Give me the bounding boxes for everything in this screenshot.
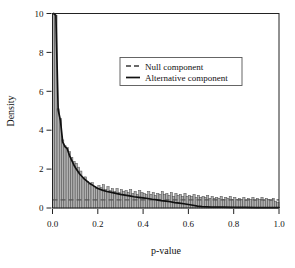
histogram-bar [145,194,147,208]
histogram-bar [96,189,98,208]
histogram-bar [179,194,181,208]
histogram-bar [243,197,245,208]
y-tick-label: 2 [39,164,44,174]
x-axis-title: p-value [151,245,182,256]
y-tick-label: 10 [35,9,45,19]
y-tick-label: 8 [39,48,44,58]
histogram-bar [268,199,270,208]
histogram-bar [234,197,236,208]
histogram-bar [161,191,163,208]
histogram-bar [102,185,104,208]
histogram-bar [252,197,254,208]
y-axis-title: Density [5,95,16,126]
histogram-bar [64,146,66,208]
histogram-bar [177,195,179,208]
histogram-bar [191,196,193,208]
legend-label-alternative: Alternative component [145,73,228,83]
histogram-bar [120,190,122,208]
histogram-bar [93,187,95,208]
x-tick-label: 0.4 [137,219,149,229]
figure-container: 0.00.20.40.60.81.0 0246810 p-value Densi… [0,0,295,268]
histogram-bar [107,187,109,208]
y-tick-label: 6 [39,87,44,97]
y-tick-label: 0 [39,203,44,213]
histogram-bar [57,109,59,208]
histogram-bar [105,190,107,208]
histogram-bar [150,194,152,208]
histogram-bar [261,197,263,208]
x-tick-label: 0.8 [228,219,240,229]
histogram-bar [73,161,75,208]
histogram-bar [89,185,91,208]
y-tick-label: 4 [39,125,44,135]
histogram-bar [175,193,177,208]
x-tick-label: 1.0 [273,219,285,229]
histogram-bar [184,193,186,208]
histogram-bar [82,179,84,208]
histogram-bar [91,183,93,208]
histogram-bar [229,196,231,208]
chart-svg: 0.00.20.40.60.81.0 0246810 p-value Densi… [0,0,295,268]
histogram-bar [182,196,184,208]
histogram-bar [259,199,261,208]
x-tick-label: 0.0 [47,219,59,229]
histogram-bar [188,195,190,208]
x-tick-label: 0.2 [92,219,103,229]
x-tick-label: 0.6 [183,219,195,229]
histogram-bar [139,191,141,209]
histogram-bar [154,195,156,208]
histogram-bar [265,198,267,208]
histogram-bar [62,140,64,208]
histogram-bar [220,196,222,208]
histogram-bar [111,189,113,208]
histogram-bar [186,196,188,208]
histogram-bar [130,190,132,208]
legend: Null component Alternative component [120,58,242,86]
histogram-bar [170,192,172,208]
histogram-bar [66,148,68,208]
histogram-bar [225,197,227,208]
legend-label-null: Null component [145,62,204,72]
histogram-bar [143,193,145,208]
histogram-bar [116,189,118,208]
histogram-bar [86,182,88,208]
